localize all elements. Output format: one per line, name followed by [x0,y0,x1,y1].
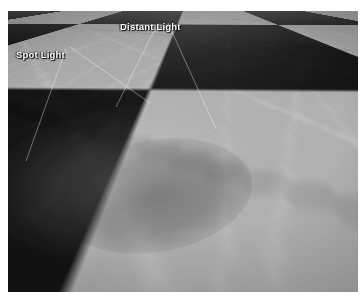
render-page: Distant Light Spot Light [0,0,364,299]
label-spot-light: Spot Light [16,49,65,60]
render-viewport: Distant Light Spot Light [8,11,358,292]
marble-veining [8,11,358,13]
checkerboard-floor [8,11,358,13]
label-distant-light: Distant Light [120,21,181,32]
